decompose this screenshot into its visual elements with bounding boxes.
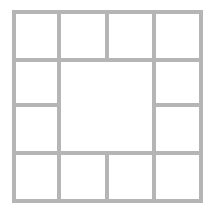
- grid-cell: [152, 58, 203, 107]
- grid-cell: [12, 103, 61, 155]
- grid-cell: [57, 10, 109, 62]
- grid-cell: [105, 151, 156, 203]
- grid-cell: [152, 103, 203, 155]
- grid-diagram: [0, 0, 212, 214]
- grid-cell: [105, 10, 156, 62]
- grid-cell: [152, 10, 203, 62]
- grid-cell: [57, 151, 109, 203]
- grid-cell: [12, 151, 61, 203]
- grid-cell: [152, 151, 203, 203]
- grid-cell: [12, 58, 61, 107]
- grid-cell-center: [57, 58, 156, 155]
- grid-cell: [12, 10, 61, 62]
